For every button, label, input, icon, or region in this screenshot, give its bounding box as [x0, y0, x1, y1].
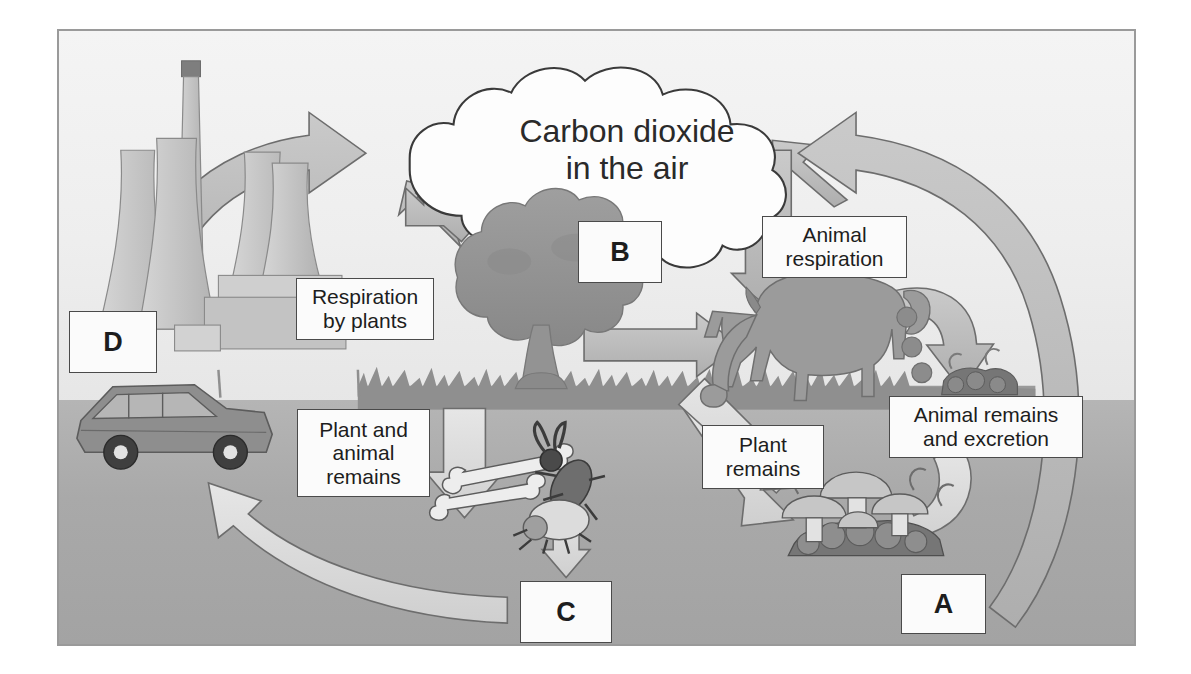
box-b: B — [578, 221, 662, 283]
label-animal-respiration: Animal respiration — [762, 216, 907, 278]
box-a: A — [901, 574, 986, 634]
car-icon — [77, 385, 272, 469]
label-animal-remains-and-excretion: Animal remains and excretion — [889, 396, 1083, 458]
diagram-canvas: Carbon dioxide in the air Respiration by… — [0, 0, 1191, 674]
cloud-label: Carbon dioxide in the air — [462, 113, 792, 187]
label-respiration-by-plants: Respiration by plants — [296, 278, 434, 340]
box-d: D — [69, 311, 157, 373]
grass-blade — [358, 370, 359, 397]
box-c: C — [520, 581, 612, 643]
diagram-frame: Carbon dioxide in the air Respiration by… — [57, 29, 1136, 646]
label-plant-and-animal-remains: Plant and animal remains — [297, 409, 430, 497]
grass-blade — [218, 370, 220, 398]
label-plant-remains: Plant remains — [702, 425, 824, 489]
